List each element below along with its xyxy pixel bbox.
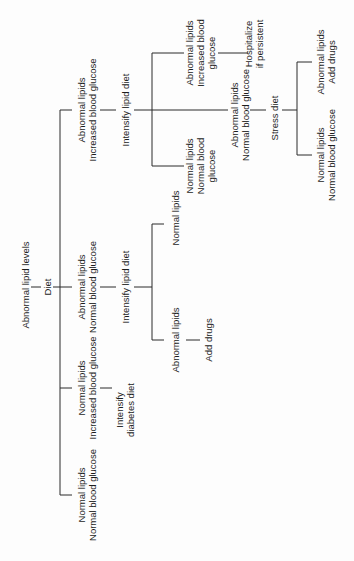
connector-lines bbox=[0, 0, 354, 561]
line: diabetes diet bbox=[125, 383, 136, 437]
line: if persistent bbox=[254, 20, 265, 69]
line: Normal lipids bbox=[184, 138, 195, 195]
line: Hospitalize bbox=[243, 20, 254, 69]
b1-abn-norm: Abnormal lipids Normal blood glucose bbox=[229, 69, 251, 161]
line: Increased blood glucose bbox=[87, 59, 98, 162]
root-node: Abnormal lipid levels bbox=[20, 241, 31, 328]
stress-norm-norm: Normal lipids Normal blood glucose bbox=[315, 109, 337, 201]
line: Normal lipids bbox=[315, 109, 326, 201]
branch-norm-incr: Normal lipids Increased blood glucose bbox=[76, 337, 98, 440]
line: Abnormal lipids bbox=[76, 241, 87, 333]
line: Abnormal lipids bbox=[184, 19, 195, 87]
line: Normal blood glucose bbox=[87, 449, 98, 541]
line: glucose bbox=[206, 19, 217, 87]
b2-normal-lipids: Normal lipids bbox=[170, 191, 181, 246]
branch-abn-norm: Abnormal lipids Normal blood glucose bbox=[76, 241, 98, 333]
b2-add-drugs: Add drugs bbox=[203, 318, 214, 361]
line: Normal blood glucose bbox=[326, 109, 337, 201]
line: Normal lipids bbox=[76, 449, 87, 541]
line: Normal lipids bbox=[76, 337, 87, 440]
action-intensify-lipid-2: Intensify lipid diet bbox=[120, 251, 131, 324]
b1-stress-diet: Stress diet bbox=[269, 96, 280, 141]
b1-hospitalize: Hospitalize if persistent bbox=[243, 20, 265, 69]
branch-abn-incr: Abnormal lipids Increased blood glucose bbox=[76, 59, 98, 162]
line: Normal blood glucose bbox=[87, 241, 98, 333]
line: Add drugs bbox=[326, 30, 337, 95]
branch-norm-norm: Normal lipids Normal blood glucose bbox=[76, 449, 98, 541]
line: Increased blood glucose bbox=[87, 337, 98, 440]
line: glucose bbox=[206, 138, 217, 195]
diet-node: Diet bbox=[42, 279, 53, 296]
flowchart: Abnormal lipid levels Diet Abnormal lipi… bbox=[0, 0, 354, 561]
b1-abn-incr: Abnormal lipids Increased blood glucose bbox=[184, 19, 217, 87]
line: Abnormal lipids bbox=[76, 59, 87, 162]
action-intensify-lipid-1: Intensify lipid diet bbox=[120, 74, 131, 147]
line: Normal blood glucose bbox=[240, 69, 251, 161]
b2-abnormal-lipids: Abnormal lipids bbox=[170, 308, 181, 373]
b1-norm-norm: Normal lipids Normal blood glucose bbox=[184, 138, 217, 195]
line: Intensify bbox=[114, 383, 125, 437]
line: Abnormal lipids bbox=[315, 30, 326, 95]
stress-abn-add-drugs: Abnormal lipids Add drugs bbox=[315, 30, 337, 95]
action-intensify-diabetes: Intensify diabetes diet bbox=[114, 383, 136, 437]
line: Increased blood bbox=[195, 19, 206, 87]
line: Normal blood bbox=[195, 138, 206, 195]
line: Abnormal lipids bbox=[229, 69, 240, 161]
